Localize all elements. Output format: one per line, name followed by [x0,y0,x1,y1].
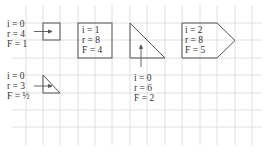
unit-square-r: r = 4 [7,29,27,39]
big-square-i: i = 1 [82,25,102,35]
big-square-F: F = 4 [82,45,102,55]
unit-square-F: F = 1 [7,39,27,49]
small-triangle-r: r = 3 [7,81,30,91]
big-square-label: i = 1 r = 8 F = 4 [82,25,102,55]
unit-square-i: i = 0 [7,19,27,29]
big-triangle-F: F = 2 [134,93,154,103]
big-triangle-shape [130,23,165,58]
big-triangle-label: i = 0 r = 6 F = 2 [134,73,154,103]
pentagon-F: F = 5 [185,45,205,55]
unit-square-label: i = 0 r = 4 F = 1 [7,19,27,49]
pentagon-i: i = 2 [185,25,205,35]
big-square-r: r = 8 [82,35,102,45]
pentagon-label: i = 2 r = 8 F = 5 [185,25,205,55]
small-triangle-shape [43,75,60,93]
big-triangle-r: r = 6 [134,83,154,93]
small-triangle-label: i = 0 r = 3 F = ½ [7,71,30,101]
big-triangle-i: i = 0 [134,73,154,83]
small-triangle-i: i = 0 [7,71,30,81]
small-triangle-F: F = ½ [7,91,30,101]
big-triangle-arrow-icon [140,45,143,67]
pentagon-r: r = 8 [185,35,205,45]
